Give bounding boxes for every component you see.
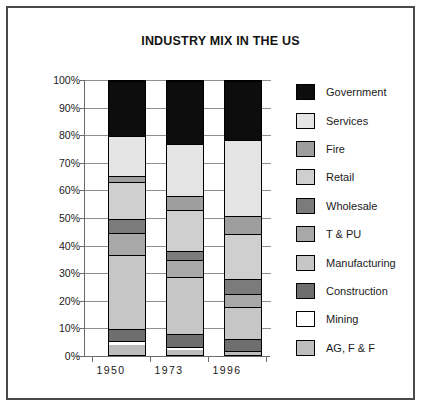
bar-segment-fire [109, 176, 145, 183]
stacked-bar-1996 [224, 80, 262, 356]
stacked-bar-1950 [108, 80, 146, 356]
bar-segment-t-pu [225, 294, 261, 308]
legend-label: Mining [326, 313, 358, 325]
bar-segment-retail [167, 210, 203, 251]
bar-segment-construction [225, 339, 261, 351]
bar-segment-manufacturing [109, 255, 145, 329]
bar-segment-wholesale [225, 279, 261, 294]
x-axis-tick-mark [150, 357, 151, 362]
bar-segment-government [109, 81, 145, 136]
legend-swatch-icon [296, 113, 315, 129]
bar-segment-t-pu [109, 233, 145, 255]
plot-area-wrapper [84, 80, 270, 356]
legend-label: Services [326, 115, 368, 127]
x-axis-tick-mark [208, 357, 209, 362]
legend-label: Government [326, 86, 387, 98]
stacked-bar-1973 [166, 80, 204, 356]
legend-item-t-pu[interactable]: T & PU [296, 220, 421, 248]
legend-swatch-icon [296, 340, 315, 356]
legend-item-fire[interactable]: Fire [296, 135, 421, 163]
legend-label: Construction [326, 285, 388, 297]
legend-swatch-icon [296, 198, 315, 214]
bar-segment-fire [225, 216, 261, 234]
x-axis-tick-mark [266, 357, 267, 362]
bar-segment-fire [167, 196, 203, 210]
y-axis-tick-label: 100% [53, 74, 80, 86]
bar-segment-services [167, 144, 203, 196]
y-axis-tick-label: 70% [59, 157, 80, 169]
y-axis: 0%10%20%30%40%50%60%70%80%90%100% [8, 80, 80, 356]
y-axis-tick-label: 40% [59, 240, 80, 252]
bar-segment-t-pu [167, 260, 203, 276]
y-axis-tick-label: 60% [59, 184, 80, 196]
bar-segment-services [225, 140, 261, 216]
legend-item-mining[interactable]: Mining [296, 305, 421, 333]
legend-item-government[interactable]: Government [296, 78, 421, 106]
legend-item-services[interactable]: Services [296, 106, 421, 134]
x-axis-tick-label-1950: 1950 [81, 364, 141, 376]
bar-segment-construction [109, 329, 145, 341]
x-axis-tick-mark [92, 357, 93, 362]
y-axis-tick-label: 10% [59, 322, 80, 334]
y-axis-tick-label: 80% [59, 129, 80, 141]
chart-frame: INDUSTRY MIX IN THE US 0%10%20%30%40%50%… [6, 6, 415, 400]
x-axis-tick-label-1973: 1973 [139, 364, 199, 376]
legend-swatch-icon [296, 169, 315, 185]
bar-segment-construction [167, 334, 203, 346]
legend-swatch-icon [296, 311, 315, 327]
bar-segment-manufacturing [225, 307, 261, 338]
legend-swatch-icon [296, 84, 315, 100]
legend-swatch-icon [296, 226, 315, 242]
legend-swatch-icon [296, 283, 315, 299]
legend-label: Wholesale [326, 200, 377, 212]
bar-segment-government [225, 81, 261, 140]
x-axis: 195019731996 [84, 357, 278, 383]
bar-segment-ag-f-f [109, 345, 145, 355]
bar-segment-government [167, 81, 203, 144]
legend-label: AG, F & F [326, 342, 375, 354]
legend-item-wholesale[interactable]: Wholesale [296, 192, 421, 220]
chart-legend: GovernmentServicesFireRetailWholesaleT &… [296, 78, 421, 362]
legend-item-construction[interactable]: Construction [296, 277, 421, 305]
chart-title: INDUSTRY MIX IN THE US [8, 34, 425, 48]
legend-item-manufacturing[interactable]: Manufacturing [296, 248, 421, 276]
bar-segment-services [109, 136, 145, 176]
legend-label: Fire [326, 143, 345, 155]
y-axis-tick-label: 30% [59, 267, 80, 279]
bar-segment-retail [225, 234, 261, 279]
legend-label: T & PU [326, 228, 361, 240]
legend-swatch-icon [296, 255, 315, 271]
bar-segment-manufacturing [167, 277, 203, 335]
legend-label: Manufacturing [326, 257, 396, 269]
y-axis-tick-label: 50% [59, 212, 80, 224]
legend-label: Retail [326, 171, 354, 183]
y-axis-tick-label: 90% [59, 102, 80, 114]
bar-segment-wholesale [167, 251, 203, 261]
bar-segment-ag-f-f [225, 352, 261, 355]
x-axis-tick-label-1996: 1996 [197, 364, 257, 376]
y-axis-tick-label: 20% [59, 295, 80, 307]
bar-segment-ag-f-f [167, 350, 203, 355]
bar-segment-retail [109, 182, 145, 219]
legend-swatch-icon [296, 141, 315, 157]
bar-segment-wholesale [109, 219, 145, 233]
legend-item-retail[interactable]: Retail [296, 163, 421, 191]
legend-item-ag-f-f[interactable]: AG, F & F [296, 334, 421, 362]
